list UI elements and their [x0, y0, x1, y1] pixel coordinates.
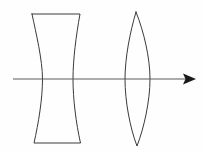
optics-diagram-figure: Optical diagram: diverging and convergin…: [0, 0, 204, 152]
optical-axis: [13, 74, 196, 85]
diagram-canvas: [0, 0, 204, 152]
